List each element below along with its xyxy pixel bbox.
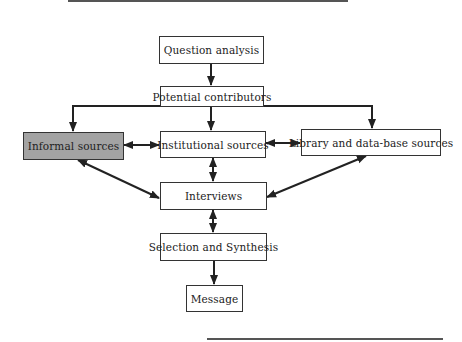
contributors-bus (73, 106, 372, 131)
node-label: Institutional sources (157, 139, 269, 151)
node-message: Message (186, 285, 243, 312)
node-question-analysis: Question analysis (159, 36, 264, 64)
node-label: Potential contributors (153, 91, 272, 103)
node-selection-synthesis: Selection and Synthesis (160, 233, 267, 261)
node-library-sources: Library and data-base sources (301, 129, 441, 156)
arrow-informal-interviews (78, 160, 159, 198)
node-label: Interviews (185, 190, 242, 202)
node-informal-sources: Informal sources (23, 132, 124, 160)
node-label: Selection and Synthesis (149, 241, 278, 253)
node-interviews: Interviews (160, 182, 267, 210)
arrow-library-interviews (267, 156, 366, 197)
node-label: Question analysis (164, 44, 259, 56)
node-label: Informal sources (28, 140, 120, 152)
node-label: Message (191, 293, 239, 305)
node-label: Library and data-base sources (289, 137, 454, 149)
node-potential-contributors: Potential contributors (160, 86, 264, 107)
node-institutional-sources: Institutional sources (160, 131, 266, 158)
